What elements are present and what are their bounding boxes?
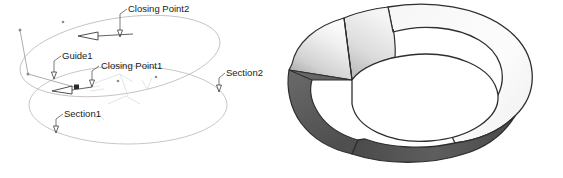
solid-inner-opening (352, 54, 498, 141)
closing-point1-marker (74, 85, 79, 90)
section1-direction-arrow (52, 85, 92, 95)
label-section-2: Section2 (226, 67, 263, 78)
node-point (19, 29, 22, 32)
node-point (27, 73, 30, 76)
solid-outer-wall-dark (288, 70, 358, 154)
wireframe-loft-panel: Closing Point2 Guide1 Closing Point1 Sec… (14, 3, 263, 144)
label-closing-point-2: Closing Point2 (128, 3, 189, 14)
construction-line-d (86, 86, 104, 91)
node-point (117, 80, 120, 83)
solid-topleft-panel (289, 18, 352, 80)
leader-section-2: Section2 (217, 67, 263, 92)
leader-section-1: Section1 (54, 108, 101, 133)
label-section-1: Section1 (64, 108, 101, 119)
node-point (155, 76, 158, 79)
leader-guide-1: Guide1 (52, 50, 93, 79)
section1-curve (29, 66, 227, 144)
construction-line-f (108, 96, 140, 104)
construction-line-c (142, 78, 152, 89)
label-closing-point-1: Closing Point1 (101, 60, 162, 71)
shaded-solid-panel (288, 4, 532, 162)
leader-closing-point-1: Closing Point1 (90, 60, 163, 87)
leader-closing-point-2: Closing Point2 (118, 3, 190, 37)
section2-direction-arrow (78, 32, 133, 40)
cad-loft-figure: Closing Point2 Guide1 Closing Point1 Sec… (0, 0, 563, 178)
construction-line-b (120, 74, 128, 96)
label-guide-1: Guide1 (62, 50, 93, 61)
construction-line-a (95, 74, 133, 83)
node-point (62, 21, 65, 24)
guide1-curve (20, 30, 28, 74)
